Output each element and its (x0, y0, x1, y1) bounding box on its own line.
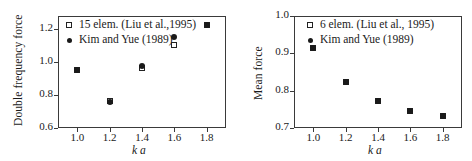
legend-row: Kim and Yue (1989) (304, 32, 434, 47)
data-point-marker (343, 79, 349, 85)
data-point-marker (171, 34, 177, 40)
y-tick-label: 0.6 (20, 120, 53, 132)
x-tick-mark (313, 128, 314, 132)
data-point-marker (107, 99, 113, 105)
legend-label: 6 elem. (Liu et al., 1995) (319, 18, 434, 30)
figure-container: Double frequency force k a 0.60.81.01.2 … (0, 0, 472, 161)
y-tick-mark (54, 128, 58, 129)
filled-circle-icon (63, 33, 75, 45)
x-tick-label: 1.6 (159, 131, 189, 143)
legend-row: 6 elem. (Liu et al., 1995) (304, 17, 434, 32)
y-tick-mark (290, 53, 294, 54)
x-tick-mark (443, 128, 444, 132)
data-point-marker (171, 42, 177, 48)
chart-panel-left: Double frequency force k a 0.60.81.01.2 … (0, 0, 236, 161)
x-tick-mark (346, 128, 347, 132)
y-tick-mark (290, 91, 294, 92)
x-tick-label: 1.4 (127, 131, 157, 143)
x-tick-mark (174, 128, 175, 132)
y-tick-mark (290, 128, 294, 129)
x-tick-mark (110, 128, 111, 132)
x-tick-mark (142, 128, 143, 132)
legend-right: 6 elem. (Liu et al., 1995) Kim and Yue (… (304, 17, 434, 47)
legend-label: Kim and Yue (1989) (78, 33, 173, 45)
chart-panel-right: Mean force k a 0.70.80.91.0 1.01.21.41.6… (236, 0, 472, 161)
y-tick-mark (54, 62, 58, 63)
y-tick-mark (290, 16, 294, 17)
y-tick-label: 1.2 (20, 21, 53, 33)
x-axis-title-left: k a (132, 144, 146, 156)
y-tick-label: 0.8 (20, 87, 53, 99)
y-tick-label: 0.7 (256, 120, 289, 132)
legend-label: Kim and Yue (1989) (319, 33, 414, 45)
x-tick-label: 1.2 (331, 131, 361, 143)
x-tick-label: 1.2 (95, 131, 125, 143)
x-tick-label: 1.4 (363, 131, 393, 143)
x-axis-title-right: k a (368, 144, 382, 156)
x-tick-label: 1.0 (62, 131, 92, 143)
legend-label: 15 elem. (Liu et al.,1995) (78, 18, 196, 30)
data-point-marker (74, 67, 80, 73)
y-tick-mark (54, 29, 58, 30)
open-square-icon (304, 18, 316, 30)
legend-row: 15 elem. (Liu et al.,1995) (63, 17, 196, 32)
x-tick-mark (77, 128, 78, 132)
filled-circle-icon (304, 33, 316, 45)
y-tick-mark (54, 95, 58, 96)
x-tick-label: 1.8 (428, 131, 458, 143)
open-square-icon (63, 18, 75, 30)
y-tick-label: 1.0 (256, 8, 289, 20)
y-tick-label: 0.9 (256, 45, 289, 57)
x-tick-label: 1.0 (298, 131, 328, 143)
x-tick-label: 1.6 (395, 131, 425, 143)
x-tick-label: 1.8 (192, 131, 222, 143)
x-tick-mark (410, 128, 411, 132)
y-tick-label: 0.8 (256, 83, 289, 95)
y-tick-label: 1.0 (20, 54, 53, 66)
data-point-marker (204, 22, 210, 28)
x-tick-mark (207, 128, 208, 132)
x-tick-mark (378, 128, 379, 132)
